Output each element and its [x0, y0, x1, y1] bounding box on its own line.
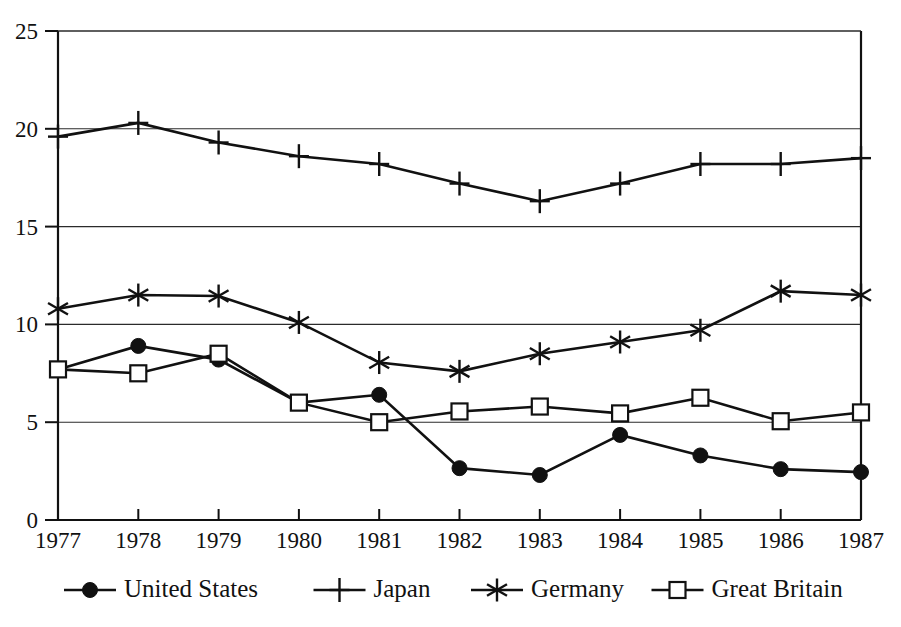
axis-lines — [58, 31, 861, 520]
series-line-germany — [58, 291, 861, 371]
series-japan-marker-10 — [851, 146, 871, 170]
y-tick-label-5: 5 — [27, 410, 39, 435]
x-tick-label-1981: 1981 — [356, 528, 402, 553]
series-great-britain-marker-2 — [211, 346, 227, 362]
chart-legend: United StatesJapanGermanyGreat Britain — [64, 575, 843, 602]
line-chart: 0510152025 19771978197919801981198219831… — [0, 0, 901, 627]
legend-united-states-marker-0 — [83, 583, 98, 598]
x-tick-label-1984: 1984 — [597, 528, 644, 553]
series-japan-marker-9 — [771, 152, 791, 176]
series-great-britain-marker-10 — [853, 404, 869, 420]
x-tick-label-1978: 1978 — [115, 528, 161, 553]
y-tick-label-10: 10 — [15, 312, 38, 337]
y-tick-label-25: 25 — [15, 19, 38, 44]
series-germany-marker-3 — [289, 311, 309, 334]
y-tick-label-15: 15 — [15, 215, 38, 240]
series-japan-marker-3 — [289, 144, 309, 168]
x-tick-label-1986: 1986 — [758, 528, 804, 553]
legend-label-great-britain: Great Britain — [712, 575, 844, 602]
series-japan-marker-1 — [128, 111, 148, 135]
series-united-states-marker-8 — [693, 448, 708, 463]
series-great-britain-marker-9 — [773, 413, 789, 429]
series-great-britain-marker-0 — [50, 361, 66, 377]
x-tick-label-1987: 1987 — [838, 528, 884, 553]
legend-japan-marker-0 — [330, 578, 350, 602]
x-tick-label-1983: 1983 — [517, 528, 563, 553]
x-tick-label-1982: 1982 — [437, 528, 483, 553]
series-great-britain-marker-8 — [692, 390, 708, 406]
x-tick-label-1979: 1979 — [196, 528, 242, 553]
series-united-states-marker-4 — [372, 387, 387, 402]
series-united-states-marker-6 — [532, 468, 547, 483]
chart-canvas: 0510152025 19771978197919801981198219831… — [0, 0, 901, 627]
series-great-britain-marker-4 — [371, 414, 387, 430]
series-great-britain-marker-7 — [612, 405, 628, 421]
series-japan-marker-7 — [610, 172, 630, 196]
legend-item-great-britain[interactable]: Great Britain — [652, 575, 844, 602]
y-tick-label-20: 20 — [15, 117, 38, 142]
series-japan-marker-2 — [209, 130, 229, 154]
series-japan-marker-8 — [690, 152, 710, 176]
series-japan-marker-4 — [369, 152, 389, 176]
legend-item-united-states[interactable]: United States — [64, 575, 258, 602]
legend-item-germany[interactable]: Germany — [471, 575, 625, 602]
x-axis-ticks — [58, 509, 861, 520]
series-japan-marker-5 — [450, 172, 470, 196]
series-great-britain-marker-5 — [452, 403, 468, 419]
x-tick-label-1977: 1977 — [35, 528, 81, 553]
series-united-states-marker-10 — [854, 465, 869, 480]
legend-item-japan[interactable]: Japan — [314, 575, 431, 602]
series-united-states-marker-5 — [452, 461, 467, 476]
legend-label-united-states: United States — [124, 575, 258, 602]
legend-great-britain-marker-0 — [670, 582, 686, 598]
series-great-britain-marker-1 — [130, 365, 146, 381]
series-great-britain-marker-3 — [291, 395, 307, 411]
series-united-states-marker-1 — [131, 338, 146, 353]
legend-label-japan: Japan — [374, 575, 431, 602]
series-japan-marker-6 — [530, 189, 550, 213]
legend-label-germany: Germany — [531, 575, 625, 602]
y-axis-tick-labels: 0510152025 — [15, 19, 38, 533]
y-axis-ticks — [45, 31, 58, 520]
series-markers-great-britain — [50, 346, 869, 430]
series-markers-japan — [48, 111, 871, 213]
x-axis-tick-labels: 1977197819791980198119821983198419851986… — [35, 528, 884, 553]
x-tick-label-1980: 1980 — [276, 528, 322, 553]
series-united-states-marker-7 — [613, 427, 628, 442]
series-great-britain-marker-6 — [532, 399, 548, 415]
series-united-states-marker-9 — [773, 462, 788, 477]
x-tick-label-1985: 1985 — [677, 528, 723, 553]
